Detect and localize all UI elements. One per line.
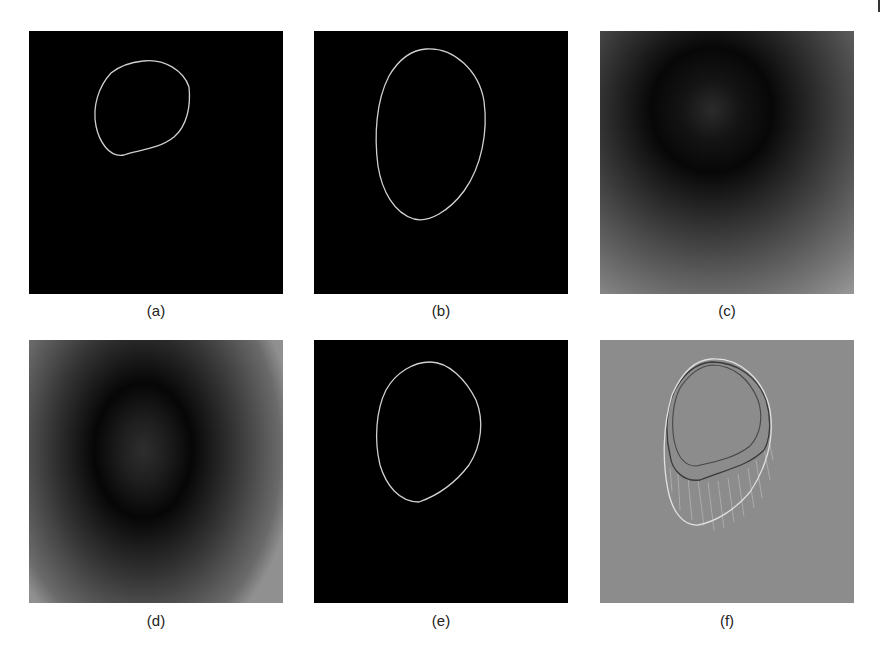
caption-b: (b) — [314, 302, 568, 319]
panel-c — [600, 31, 854, 294]
caption-c: (c) — [600, 302, 854, 319]
panel-a — [29, 31, 283, 294]
panel-d — [29, 340, 283, 603]
panel-f — [600, 340, 854, 603]
energy-map-c — [600, 31, 854, 294]
panel-e — [314, 340, 568, 603]
contour-b — [314, 31, 568, 294]
contour-e — [314, 340, 568, 603]
caption-f: (f) — [600, 612, 854, 629]
caption-a: (a) — [29, 302, 283, 319]
panel-b — [314, 31, 568, 294]
caption-e: (e) — [314, 612, 568, 629]
page-edge-mark — [878, 0, 880, 12]
energy-map-d — [29, 340, 283, 603]
contour-a — [29, 31, 283, 294]
caption-d: (d) — [29, 612, 283, 629]
overlay-f — [600, 340, 854, 603]
